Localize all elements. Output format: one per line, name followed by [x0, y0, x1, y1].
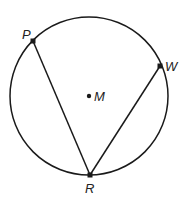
label-r: R — [85, 181, 94, 196]
center-m-marker — [87, 94, 91, 98]
label-p: P — [22, 27, 31, 42]
point-p-marker — [31, 39, 36, 44]
point-r-marker — [88, 173, 93, 178]
circle-diagram: P W R M — [0, 0, 186, 198]
chord-rw — [90, 66, 160, 175]
label-m: M — [94, 89, 105, 104]
label-w: W — [165, 59, 179, 74]
chord-pr — [33, 41, 90, 175]
point-w-marker — [158, 64, 163, 69]
